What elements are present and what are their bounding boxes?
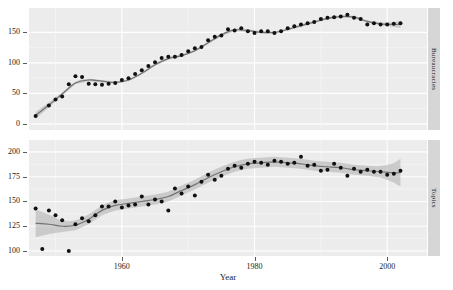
data-point [34,114,38,118]
y-tick-mark [23,201,27,202]
data-point [312,163,316,167]
data-point [127,76,131,80]
data-point [54,213,58,217]
data-point [332,15,336,19]
data-point [279,160,283,164]
data-point [100,204,104,208]
data-point [286,162,290,166]
data-point [166,208,170,212]
plot-panel-topics [29,140,427,256]
data-point [319,17,323,21]
data-point [246,29,250,33]
y-tick-label: 150 [0,28,20,36]
data-point [107,204,111,208]
data-point [213,178,217,182]
data-point [385,173,389,177]
strip-label-topics: Topics [430,188,438,208]
y-tick-mark [23,124,27,125]
data-point [193,194,197,198]
data-point [365,168,369,172]
data-point [226,27,230,31]
data-point [93,82,97,86]
data-point [379,170,383,174]
y-tick-label: 50 [0,89,20,97]
y-tick-label: 125 [0,222,20,230]
data-point [279,29,283,33]
data-point [160,56,164,60]
y-tick-label: 175 [0,173,20,181]
data-point [87,82,91,86]
data-point [199,45,203,49]
y-tick-label: 200 [0,148,20,156]
data-point [385,22,389,26]
data-point [133,202,137,206]
data-point [266,163,270,167]
data-point [73,222,77,226]
strip-bureaucracies: Bureaucracies [428,8,440,130]
data-point [239,26,243,30]
data-point [365,22,369,26]
data-point [332,162,336,166]
data-point [113,199,117,203]
data-point [219,33,223,37]
data-point [206,173,210,177]
data-point [292,24,296,28]
data-point [186,185,190,189]
data-point [60,218,64,222]
data-point [133,72,137,76]
plot-area-bureaucracies [29,8,427,130]
data-point [180,192,184,196]
data-point [160,199,164,203]
data-point [246,162,250,166]
data-point [87,219,91,223]
data-point [326,168,330,172]
data-point [392,22,396,26]
data-point [345,13,349,17]
data-point [299,155,303,159]
data-point [339,166,343,170]
data-point [107,82,111,86]
data-point [233,29,237,33]
x-tick-label: 2000 [379,263,395,271]
data-point [206,38,210,42]
data-point [60,94,64,98]
data-point [266,29,270,33]
data-point [352,167,356,171]
y-tick-label: 150 [0,197,20,205]
data-point [173,55,177,59]
data-point [180,53,184,57]
data-point [120,78,124,82]
data-point [47,104,51,108]
data-point [398,169,402,173]
data-point [306,164,310,168]
data-point [272,31,276,35]
y-tick-label: 100 [0,59,20,67]
data-point [292,161,296,165]
data-point [80,216,84,220]
data-point [359,17,363,21]
data-point [146,202,150,206]
y-tick-mark [23,251,27,252]
data-point [372,21,376,25]
data-point [113,81,117,85]
data-point [47,208,51,212]
data-point [40,247,44,251]
y-tick-mark [23,93,27,94]
data-point [319,169,323,173]
strip-topics: Topics [428,140,440,256]
data-point [80,75,84,79]
x-tick-label: 1960 [114,263,130,271]
data-point [166,55,170,59]
data-point [253,160,257,164]
data-point [359,170,363,174]
data-point [199,180,203,184]
data-point [219,174,223,178]
data-point [100,83,104,87]
data-point [259,29,263,33]
data-point [140,68,144,72]
data-point [193,46,197,50]
data-point [312,20,316,24]
data-point [352,16,356,20]
data-point [140,195,144,199]
data-point [306,21,310,25]
